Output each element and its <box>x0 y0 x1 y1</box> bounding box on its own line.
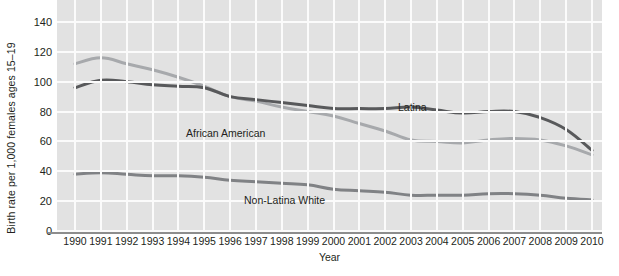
gridline-vertical <box>100 0 102 232</box>
y-tick-label: 40 <box>4 165 52 177</box>
plot-area <box>57 0 602 232</box>
gridline-vertical <box>513 0 515 232</box>
gridline-vertical <box>177 0 179 232</box>
x-axis-tick-labels: 1990199119921993199419951996199719981999… <box>57 235 602 251</box>
gridline-vertical <box>126 0 128 232</box>
gridline-horizontal <box>57 170 602 172</box>
gridline-horizontal <box>57 51 602 53</box>
x-axis-line <box>48 232 602 234</box>
gridline-horizontal <box>57 21 602 23</box>
y-tick-label: 140 <box>4 16 52 28</box>
caption-sliver <box>6 266 126 274</box>
x-tick-label: 1997 <box>244 235 267 247</box>
y-tick-label: 0 <box>4 225 52 237</box>
x-tick-label: 2001 <box>348 235 371 247</box>
gridline-vertical <box>358 0 360 232</box>
x-tick-label: 2000 <box>322 235 345 247</box>
gridline-vertical <box>591 0 593 232</box>
gridline-vertical <box>74 0 76 232</box>
x-tick-label: 1992 <box>115 235 138 247</box>
gridline-vertical <box>229 0 231 232</box>
gridline-vertical <box>565 0 567 232</box>
y-tick-label: 80 <box>4 106 52 118</box>
x-tick-label: 1993 <box>141 235 164 247</box>
x-tick-label: 1998 <box>270 235 293 247</box>
gridline-horizontal <box>57 200 602 202</box>
y-axis-tick-labels: 020406080100120140 <box>0 0 52 232</box>
x-tick-label: 2004 <box>425 235 448 247</box>
gridline-vertical <box>333 0 335 232</box>
y-tick-label: 100 <box>4 76 52 88</box>
gridline-vertical <box>436 0 438 232</box>
x-tick-label: 2007 <box>503 235 526 247</box>
x-tick-label: 1995 <box>193 235 216 247</box>
x-tick-label: 2009 <box>554 235 577 247</box>
series-label-non-latina-white: Non-Latina White <box>244 194 325 206</box>
gridline-vertical <box>152 0 154 232</box>
gridline-vertical <box>539 0 541 232</box>
x-tick-label: 1990 <box>63 235 86 247</box>
gridline-horizontal <box>57 81 602 83</box>
gridline-vertical <box>410 0 412 232</box>
x-tick-label: 1996 <box>218 235 241 247</box>
gridline-vertical <box>203 0 205 232</box>
x-tick-label: 2002 <box>374 235 397 247</box>
gridline-horizontal <box>57 140 602 142</box>
x-tick-label: 2010 <box>580 235 603 247</box>
x-tick-label: 2003 <box>399 235 422 247</box>
figure-container: Birth rate per 1,000 females ages 15–19 … <box>0 0 619 276</box>
x-tick-label: 1991 <box>89 235 112 247</box>
gridline-vertical <box>488 0 490 232</box>
x-tick-label: 2006 <box>477 235 500 247</box>
gridline-vertical <box>462 0 464 232</box>
x-tick-label: 1999 <box>296 235 319 247</box>
gridline-horizontal <box>57 111 602 113</box>
gridline-vertical <box>384 0 386 232</box>
x-tick-label: 2008 <box>529 235 552 247</box>
series-label-african-american: African American <box>186 127 265 139</box>
y-tick-label: 20 <box>4 195 52 207</box>
y-tick-label: 60 <box>4 135 52 147</box>
x-axis-title: Year <box>57 251 602 263</box>
x-tick-label: 1994 <box>167 235 190 247</box>
y-tick-label: 120 <box>4 46 52 58</box>
chart-plot-svg <box>57 0 602 232</box>
series-label-latina: Latina <box>398 101 427 113</box>
x-tick-label: 2005 <box>451 235 474 247</box>
